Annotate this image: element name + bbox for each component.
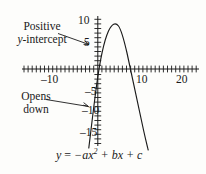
equation-term2: + bx + c (101, 148, 143, 162)
annotation-opens-down: Opens down (10, 90, 62, 116)
equation-term1: −ax (74, 148, 93, 162)
y-tick-label-neg5: –5 (85, 85, 97, 97)
annotation-line-2: y-intercept (8, 33, 76, 46)
annotation-line-1: Positive (8, 20, 76, 33)
y-tick-label-10: 10 (78, 14, 90, 26)
y-tick-label-neg15: –15 (80, 126, 97, 138)
parabola-figure: –10 10 20 10 5 –5 –10 –15 Positive y-int… (0, 0, 206, 174)
annotation-positive-y-intercept: Positive y-intercept (8, 20, 76, 46)
x-tick-label-10: 10 (136, 73, 148, 85)
y-tick-label-neg10: –10 (82, 104, 99, 116)
equation-label: y = −ax2 + bx + c (56, 148, 142, 163)
y-tick-label-5: 5 (84, 36, 90, 48)
x-tick-label-20: 20 (176, 73, 188, 85)
annotation-intercept-text: -intercept (23, 33, 67, 45)
x-tick-label-neg10: –10 (41, 73, 58, 85)
annotation-line-2: down (10, 103, 62, 116)
annotation-line-1: Opens (10, 90, 62, 103)
